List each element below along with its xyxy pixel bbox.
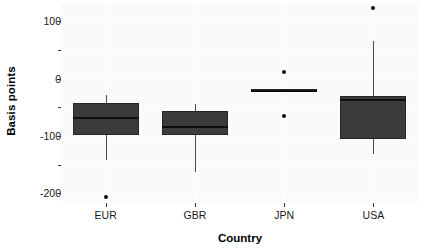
whisker-lower: [106, 135, 107, 160]
grid-line-minor: [61, 50, 418, 51]
x-axis-tick-label-usa: USA: [363, 209, 385, 221]
outlier-point: [104, 195, 108, 199]
grid-line-vertical: [195, 4, 196, 202]
y-axis-tick-mark: [57, 79, 61, 80]
y-axis-tick-label: -100: [17, 130, 61, 142]
box-usa: [340, 96, 406, 139]
whisker-lower: [195, 135, 196, 171]
x-axis-title: Country: [60, 232, 420, 244]
median-line: [73, 117, 139, 119]
whisker-upper: [106, 95, 107, 103]
whisker-lower: [373, 139, 374, 154]
y-axis-tick-mark-minor: [58, 165, 61, 166]
y-axis: 1000-100-200: [0, 0, 61, 252]
x-axis-tick-label-eur: EUR: [95, 209, 117, 221]
grid-line-major: [61, 79, 418, 80]
outlier-point: [282, 114, 286, 118]
grid-line-minor: [61, 165, 418, 166]
x-axis-tick-mark: [373, 203, 374, 207]
y-axis-tick-mark-minor: [58, 107, 61, 108]
median-line: [162, 126, 228, 128]
outlier-point: [371, 6, 375, 10]
outlier-point: [282, 70, 286, 74]
x-axis-tick-mark: [195, 203, 196, 207]
y-axis-tick-mark: [57, 193, 61, 194]
plot-panel: [61, 4, 418, 202]
y-axis-tick-label: -200: [17, 187, 61, 199]
whisker-upper: [373, 41, 374, 96]
y-axis-tick-mark-minor: [58, 50, 61, 51]
x-axis-tick-mark: [284, 203, 285, 207]
x-axis-tick-label-jpn: JPN: [274, 209, 294, 221]
median-line: [340, 99, 406, 101]
grid-line-vertical: [284, 4, 285, 202]
grid-line-major: [61, 21, 418, 22]
y-axis-tick-mark: [57, 21, 61, 22]
x-axis-tick-mark: [106, 203, 107, 207]
y-axis-tick-label: 0: [17, 73, 61, 85]
box-gbr: [162, 111, 228, 136]
box-eur: [73, 103, 139, 136]
y-axis-tick-mark: [57, 136, 61, 137]
grid-line-major: [61, 193, 418, 194]
y-axis-tick-label: 100: [17, 15, 61, 27]
chart-root: Basis points 1000-100-200 Country EURGBR…: [0, 0, 426, 252]
median-line: [251, 90, 317, 92]
x-axis-tick-label-gbr: GBR: [183, 209, 206, 221]
